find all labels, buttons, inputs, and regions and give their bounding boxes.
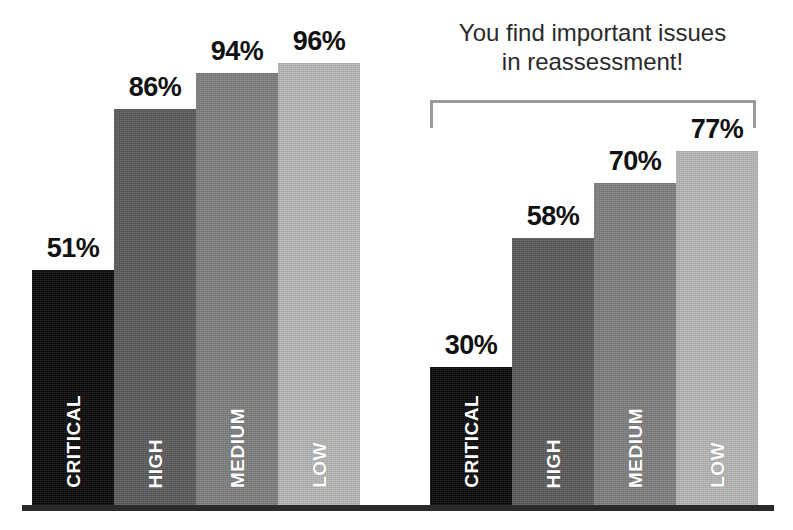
bar-category-label: CRITICAL — [32, 395, 114, 491]
axis-baseline — [22, 505, 774, 511]
bar-category-label: MEDIUM — [196, 408, 278, 491]
bar-category-label: CRITICAL — [430, 395, 512, 491]
bar-category-label: HIGH — [512, 439, 594, 492]
bar-category-label: MEDIUM — [594, 408, 676, 491]
bar-medium[interactable]: MEDIUM — [594, 183, 676, 505]
bar-medium[interactable]: MEDIUM — [196, 73, 278, 505]
bar-chart: You find important issues in reassessmen… — [0, 0, 793, 530]
bar-value-label: 86% — [114, 74, 196, 103]
annotation-line-1: You find important issues — [420, 18, 765, 47]
bar-group-initial-assessment: 51% CRITICAL 86% HIGH 94% MEDIUM 96% LOW — [32, 45, 362, 505]
bar-value-label: 96% — [278, 28, 360, 57]
bar-value-label: 70% — [594, 148, 676, 177]
bar-low[interactable]: LOW — [676, 151, 758, 505]
bar-category-label: HIGH — [114, 439, 196, 492]
bar-value-label: 58% — [512, 203, 594, 232]
bar-low[interactable]: LOW — [278, 63, 360, 505]
bar-category-label: LOW — [676, 442, 758, 491]
bar-category-label: LOW — [278, 442, 360, 491]
bar-value-label: 77% — [676, 116, 758, 145]
bar-high[interactable]: HIGH — [114, 109, 196, 505]
bar-value-label: 94% — [196, 38, 278, 67]
bar-value-label: 30% — [430, 332, 512, 361]
bar-critical[interactable]: CRITICAL — [430, 367, 512, 505]
bar-high[interactable]: HIGH — [512, 238, 594, 505]
bar-critical[interactable]: CRITICAL — [32, 270, 114, 505]
bar-group-reassessment: 30% CRITICAL 58% HIGH 70% MEDIUM 77% LOW — [430, 45, 760, 505]
bar-value-label: 51% — [32, 235, 114, 264]
